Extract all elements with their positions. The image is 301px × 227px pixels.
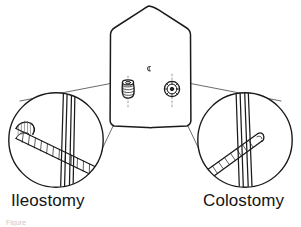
ileostomy-label: Ileostomy	[11, 192, 85, 209]
colostomy-label: Colostomy	[203, 192, 284, 209]
stoma-diagram-figure: Ileostomy Colostomy Figure	[0, 0, 301, 227]
colostomy-detail-circle	[197, 90, 292, 192]
figure-caption-partial: Figure	[6, 219, 76, 226]
ileostomy-stoma	[122, 80, 134, 98]
colostomy-stoma	[164, 81, 179, 96]
ileostomy-detail-circle	[9, 90, 103, 192]
